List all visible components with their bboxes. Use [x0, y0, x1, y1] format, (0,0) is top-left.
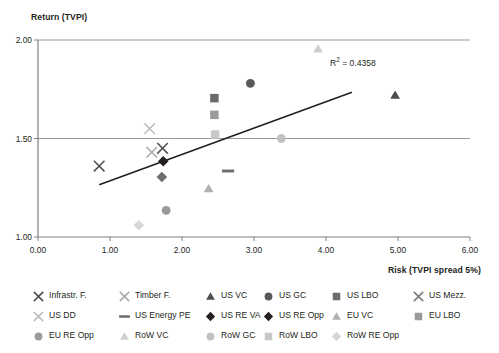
- marker-circle: [246, 79, 255, 88]
- legend-marker-circle-icon: [204, 329, 217, 342]
- r-squared-text: R2 =: [330, 58, 350, 68]
- data-point: [222, 170, 234, 173]
- data-point: [210, 111, 219, 120]
- legend-item-label: RoW GC: [221, 329, 255, 342]
- legend-item-label: RoW LBO: [279, 329, 318, 342]
- legend-marker-canvas: [204, 330, 217, 343]
- legend-item[interactable]: US RE VA: [204, 308, 260, 322]
- scatter-chart-figure: Return (TVPI) Risk (TVPI spread 5%) 1.00…: [0, 0, 499, 353]
- legend-item-label: US RE Opp: [279, 309, 324, 322]
- legend-marker-triangle-icon: [118, 329, 131, 342]
- legend-item-label: US LBO: [347, 289, 379, 302]
- marker-diamond: [206, 311, 215, 320]
- plot-area: [38, 40, 470, 237]
- legend-marker-dash-icon: [118, 309, 131, 322]
- legend-marker-canvas: [412, 310, 425, 323]
- legend-marker-x-icon: [32, 309, 45, 322]
- marker-diamond: [158, 156, 169, 167]
- legend-item-label: EU LBO: [429, 309, 461, 322]
- legend-item[interactable]: US Energy PE: [118, 308, 190, 322]
- r-squared-value: 0.4358: [350, 58, 376, 68]
- y-axis-title: Return (TVPI): [31, 12, 87, 22]
- marker-square: [211, 130, 220, 139]
- legend-item-label: US Mezz.: [429, 289, 466, 302]
- legend-marker-glyph: [264, 311, 273, 320]
- data-point: [157, 172, 168, 183]
- legend-marker-canvas: [32, 310, 45, 323]
- plot-canvas: [38, 40, 470, 237]
- legend-item[interactable]: Infrastr. F.: [32, 288, 87, 302]
- legend-item-label: EU RE Opp: [49, 329, 94, 342]
- legend-item[interactable]: US VC: [204, 288, 247, 302]
- legend-item-label: RoW RE Opp: [347, 329, 399, 342]
- x-tick-label: 4.00: [306, 245, 346, 255]
- data-point: [162, 206, 171, 215]
- legend-marker-triangle-icon: [330, 309, 343, 322]
- legend-item-label: EU VC: [347, 309, 373, 322]
- legend-item[interactable]: EU VC: [330, 308, 373, 322]
- y-tick-label: 1.00: [0, 232, 32, 242]
- data-point: [277, 134, 286, 143]
- legend-marker-canvas: [118, 330, 131, 343]
- legend-item[interactable]: EU LBO: [412, 308, 461, 322]
- legend-item[interactable]: RoW GC: [204, 328, 255, 342]
- legend-marker-glyph: [333, 292, 341, 300]
- legend-marker-glyph: [265, 332, 273, 340]
- legend-marker-glyph: [34, 311, 43, 320]
- legend-marker-x-icon: [118, 289, 131, 302]
- legend-marker-canvas: [330, 330, 343, 343]
- legend-item[interactable]: US GC: [262, 288, 306, 302]
- marker-square: [265, 332, 273, 340]
- legend-item-label: US RE VA: [221, 309, 260, 322]
- legend-item-label: RoW VC: [135, 329, 168, 342]
- legend-marker-glyph: [120, 332, 129, 339]
- marker-circle: [162, 206, 171, 215]
- legend-marker-glyph: [34, 291, 43, 300]
- marker-circle: [265, 292, 273, 300]
- legend-marker-canvas: [118, 310, 131, 323]
- legend-item[interactable]: US RE Opp: [262, 308, 324, 322]
- x-tick-label: 1.00: [90, 245, 130, 255]
- marker-square: [333, 292, 341, 300]
- legend-item[interactable]: RoW VC: [118, 328, 168, 342]
- marker-diamond: [157, 172, 168, 183]
- legend-marker-glyph: [414, 291, 423, 300]
- data-point: [146, 147, 157, 158]
- legend-marker-square-icon: [262, 329, 275, 342]
- legend-item-label: US DD: [49, 309, 76, 322]
- legend-marker-circle-icon: [262, 289, 275, 302]
- legend-marker-canvas: [262, 310, 275, 323]
- legend-marker-glyph: [206, 311, 215, 320]
- legend-item[interactable]: US Mezz.: [412, 288, 466, 302]
- r-squared-annotation: R2 = 0.4358: [330, 56, 376, 68]
- legend-marker-canvas: [32, 290, 45, 303]
- marker-square: [210, 111, 219, 120]
- legend-item[interactable]: US DD: [32, 308, 76, 322]
- x-tick-label: 6.00: [450, 245, 490, 255]
- marker-dash: [119, 315, 130, 318]
- chart-legend: Infrastr. F.Timber F.US VCUS GCUS LBOUS …: [0, 288, 499, 350]
- marker-diamond: [332, 331, 341, 340]
- marker-square: [210, 94, 219, 103]
- data-point: [94, 161, 105, 172]
- legend-item-label: US VC: [221, 289, 247, 302]
- legend-marker-diamond-icon: [204, 309, 217, 322]
- legend-marker-canvas: [330, 290, 343, 303]
- marker-diamond: [264, 311, 273, 320]
- legend-item[interactable]: RoW LBO: [262, 328, 318, 342]
- x-tick-label: 3.00: [234, 245, 274, 255]
- marker-dash: [222, 170, 234, 173]
- legend-item[interactable]: Timber F.: [118, 288, 171, 302]
- legend-item[interactable]: RoW RE Opp: [330, 328, 399, 342]
- data-point: [210, 94, 219, 103]
- legend-marker-circle-icon: [32, 329, 45, 342]
- data-point: [246, 79, 255, 88]
- legend-marker-canvas: [204, 290, 217, 303]
- x-tick-label: 0.00: [18, 245, 58, 255]
- legend-item-label: US Energy PE: [135, 309, 190, 322]
- legend-item[interactable]: US LBO: [330, 288, 379, 302]
- legend-item[interactable]: EU RE Opp: [32, 328, 94, 342]
- legend-marker-square-icon: [330, 289, 343, 302]
- marker-diamond: [134, 220, 145, 231]
- x-tick-label: 2.00: [162, 245, 202, 255]
